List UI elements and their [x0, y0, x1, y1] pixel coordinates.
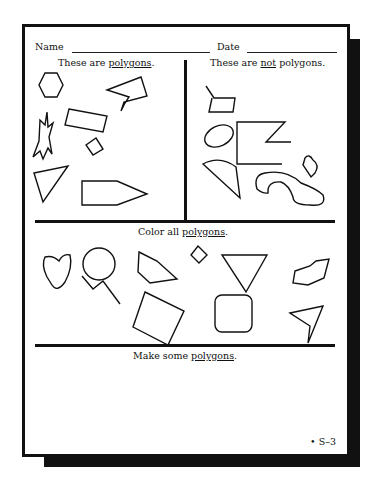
page-shadow-bottom	[44, 457, 360, 467]
quadrilateral-with-tail-shape	[206, 86, 235, 112]
inverted-triangle-shape	[222, 255, 267, 292]
circle-shape	[83, 248, 115, 280]
page-shadow-right	[350, 39, 360, 467]
small-square-shape	[86, 138, 103, 155]
open-z-bottom	[237, 148, 282, 164]
triangle-shape	[34, 166, 68, 202]
lightning-arrow-shape	[107, 77, 147, 111]
irregular-polygon-shape	[293, 259, 329, 285]
hexagon-shape	[39, 73, 63, 97]
jagged-star-shape	[33, 112, 53, 159]
small-curved-blob-shape	[303, 156, 317, 177]
ellipse-shape	[201, 121, 237, 152]
curved-blob-shape	[256, 172, 324, 205]
quadrilateral-color-shape	[138, 252, 177, 283]
arrowhead-polygon-shape	[290, 306, 323, 343]
semicircle-wedge-shape	[203, 160, 240, 198]
open-z-shape	[237, 122, 291, 148]
pencil-shape	[82, 181, 147, 205]
shapes-canvas	[25, 27, 347, 454]
rectangle-shape	[65, 109, 107, 132]
curved-blob-color-shape	[43, 255, 70, 289]
small-diamond-shape	[191, 246, 207, 263]
worksheet-page: Name Date These are polygons. These are …	[22, 24, 350, 457]
rounded-square-shape	[215, 295, 252, 332]
large-square-shape	[133, 292, 184, 345]
